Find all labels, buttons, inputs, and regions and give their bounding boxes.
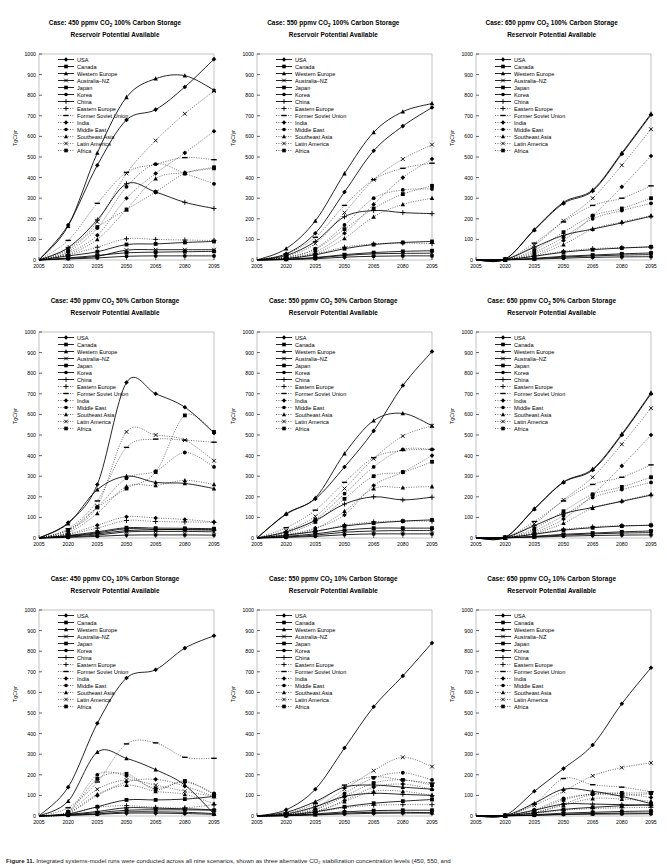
svg-text:1000: 1000 (243, 329, 255, 335)
svg-text:900: 900 (464, 350, 473, 356)
svg-text:500: 500 (464, 710, 473, 716)
legend-item-label: Korea (295, 370, 311, 376)
svg-text:0: 0 (251, 257, 254, 263)
legend-item-label: Canada (77, 64, 97, 70)
panel-title-line1: Case: 550 ppmv CO2 10% Carbon Storage (269, 575, 398, 582)
svg-text:1000: 1000 (243, 51, 255, 57)
svg-text:2095: 2095 (208, 541, 220, 547)
legend-item-label: Southeast Asia (514, 690, 552, 696)
legend-item-label: Eastern Europe (77, 662, 116, 668)
data-series (476, 111, 653, 261)
svg-text:2080: 2080 (397, 819, 409, 825)
svg-text:100: 100 (27, 792, 36, 798)
svg-text:400: 400 (464, 175, 473, 181)
panel-title: Case: 450 ppmv CO2 100% Carbon StorageRe… (6, 18, 224, 38)
svg-text:700: 700 (27, 669, 36, 675)
svg-text:2080: 2080 (616, 541, 628, 547)
legend-item-label: Canada (295, 64, 315, 70)
legend-item-label: Latin America (295, 697, 330, 703)
chart-panel: Case: 450 ppmv CO2 50% Carbon StorageRes… (6, 296, 224, 574)
panel-title-line1: Case: 550 ppmv CO2 100% Carbon Storage (267, 19, 399, 26)
svg-text:2050: 2050 (557, 819, 569, 825)
svg-text:300: 300 (464, 195, 473, 201)
legend-item-label: Africa (77, 426, 92, 432)
legend-item-label: Western Europe (295, 349, 335, 355)
chart-panel: Case: 650 ppmv CO2 100% Carbon StorageRe… (443, 18, 661, 296)
legend-item-label: Japan (295, 641, 310, 647)
svg-text:300: 300 (27, 473, 36, 479)
svg-text:2080: 2080 (397, 541, 409, 547)
legend-item-label: Eastern Europe (295, 662, 334, 668)
svg-text:2020: 2020 (281, 819, 293, 825)
svg-text:2050: 2050 (121, 263, 133, 269)
legend-item-label: USA (295, 613, 307, 619)
svg-text:200: 200 (27, 494, 36, 500)
svg-text:200: 200 (246, 216, 255, 222)
chart-legend: USACanadaWestern EuropeAustralia–NZJapan… (58, 613, 128, 710)
svg-text:600: 600 (246, 411, 255, 417)
legend-item-label: Southeast Asia (295, 412, 333, 418)
data-series (257, 771, 434, 817)
chart-panel: Case: 450 ppmv CO2 100% Carbon StorageRe… (6, 18, 224, 296)
data-series (476, 112, 653, 261)
svg-text:600: 600 (464, 411, 473, 417)
chart-legend: USACanadaWestern EuropeAustralia–NZJapan… (495, 57, 565, 154)
data-series (257, 641, 434, 816)
panel-grid: Case: 450 ppmv CO2 100% Carbon StorageRe… (6, 18, 661, 852)
legend-item-label: Korea (295, 92, 311, 98)
svg-text:2095: 2095 (427, 263, 439, 269)
svg-text:400: 400 (246, 175, 255, 181)
svg-text:2020: 2020 (62, 541, 74, 547)
legend-item-label: Africa (514, 148, 529, 154)
legend-item-label: Middle East (77, 405, 107, 411)
svg-text:700: 700 (464, 113, 473, 119)
svg-text:300: 300 (246, 473, 255, 479)
svg-text:2095: 2095 (427, 541, 439, 547)
svg-text:2080: 2080 (616, 263, 628, 269)
svg-text:2065: 2065 (587, 263, 599, 269)
chart-legend: USACanadaWestern EuropeAustralia–NZJapan… (276, 613, 346, 710)
svg-text:300: 300 (246, 195, 255, 201)
data-series (257, 101, 434, 260)
svg-text:2095: 2095 (427, 819, 439, 825)
svg-text:2005: 2005 (470, 819, 482, 825)
legend-item-label: Latin America (77, 141, 112, 147)
svg-text:2065: 2065 (368, 541, 380, 547)
svg-text:2080: 2080 (397, 263, 409, 269)
svg-text:600: 600 (246, 133, 255, 139)
legend-item-label: Australia–NZ (295, 634, 328, 640)
svg-text:2035: 2035 (92, 819, 104, 825)
plot-area: TgC/yr0100200300400500600700800900100020… (224, 316, 442, 566)
svg-text:900: 900 (27, 72, 36, 78)
legend-item-label: Former Soviet Union (77, 669, 128, 675)
svg-text:500: 500 (464, 432, 473, 438)
legend-item-label: Eastern Europe (514, 384, 553, 390)
legend-item-label: India (295, 120, 308, 126)
legend-item-label: Middle East (514, 127, 544, 133)
svg-text:2065: 2065 (587, 819, 599, 825)
legend-item-label: Australia–NZ (77, 356, 110, 362)
legend-item-label: India (295, 398, 308, 404)
legend-item-label: Eastern Europe (514, 106, 553, 112)
legend-item-label: Latin America (514, 697, 549, 703)
svg-text:900: 900 (27, 628, 36, 634)
svg-text:2095: 2095 (645, 263, 657, 269)
line-chart: 0100200300400500600700800900100020052020… (224, 316, 442, 566)
legend-item-label: Japan (295, 363, 310, 369)
legend-item-label: China (77, 99, 93, 105)
plot-area: TgC/yr0100200300400500600700800900100020… (443, 38, 661, 288)
svg-text:900: 900 (246, 72, 255, 78)
svg-text:100: 100 (464, 514, 473, 520)
panel-title-line1: Case: 650 ppmv CO2 10% Carbon Storage (487, 575, 616, 582)
svg-text:600: 600 (27, 689, 36, 695)
legend-item-label: Africa (295, 704, 310, 710)
legend-item-label: Former Soviet Union (295, 113, 346, 119)
svg-text:1000: 1000 (24, 51, 36, 57)
plot-area: TgC/yr0100200300400500600700800900100020… (6, 594, 224, 844)
panel-title-line1: Case: 450 ppmv CO2 100% Carbon Storage (49, 19, 181, 26)
legend-item-label: Southeast Asia (77, 690, 115, 696)
legend-item-label: Africa (77, 704, 92, 710)
svg-text:2005: 2005 (252, 263, 264, 269)
svg-text:0: 0 (33, 813, 36, 819)
data-series (476, 665, 653, 817)
